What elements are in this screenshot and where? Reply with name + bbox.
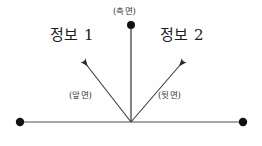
center-ray-endpoint-dot — [127, 21, 135, 29]
diagram-figure: 정보 1 정보 2 (측면) (앞면) (뒷면) — [0, 0, 262, 146]
label-back-face: (뒷면) — [158, 91, 181, 100]
label-front-face: (앞면) — [69, 91, 92, 100]
label-info-right: 정보 2 — [160, 28, 204, 43]
diagram-canvas — [0, 0, 262, 146]
baseline-right-endpoint-dot — [239, 118, 247, 126]
baseline-left-endpoint-dot — [16, 118, 24, 126]
label-info-left: 정보 1 — [50, 28, 94, 43]
label-top-face: (측면) — [113, 7, 136, 16]
